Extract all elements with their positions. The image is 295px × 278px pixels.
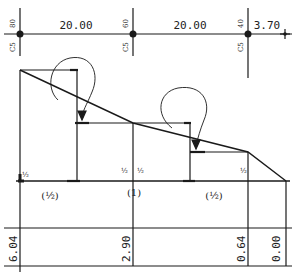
factor-1: (½) (41, 190, 59, 201)
value-4: 0.00 (270, 236, 283, 263)
end-node (283, 32, 287, 36)
support-node-2 (130, 31, 137, 38)
half-mark-1: ½ (22, 171, 29, 179)
support-top-label-3: 40 (237, 19, 245, 28)
carryover-arrow-1 (51, 57, 95, 116)
support-node-3 (245, 31, 252, 38)
diagram-canvas: 20.00 20.00 3.70 80 C5 60 C5 40 C5 ½ ½ ½… (0, 0, 295, 278)
moment-line (20, 70, 286, 181)
support-bottom-label-1: C5 (9, 42, 17, 52)
value-3: 0.64 (235, 235, 248, 262)
span-label-3: 3.70 (254, 19, 281, 32)
half-mark-3: ½ (137, 167, 144, 175)
value-2: 2.90 (120, 236, 133, 263)
step-1 (20, 70, 77, 181)
factor-2: (1) (127, 187, 141, 198)
support-bottom-label-3: C5 (237, 42, 245, 52)
value-1: 6.04 (7, 235, 20, 262)
span-label-2: 20.00 (173, 19, 206, 32)
factor-3: (½) (205, 190, 223, 201)
span-label-1: 20.00 (59, 19, 92, 32)
support-bottom-label-2: C5 (122, 42, 130, 52)
half-mark-4: ½ (240, 167, 247, 175)
support-top-label-1: 80 (9, 19, 17, 28)
half-mark-2: ½ (121, 167, 128, 175)
support-top-label-2: 60 (122, 19, 130, 28)
support-node-1 (17, 31, 24, 38)
